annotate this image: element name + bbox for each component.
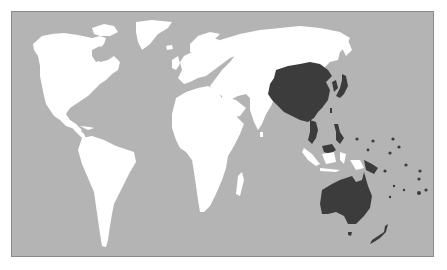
world-map [0, 0, 447, 270]
north-america [33, 33, 120, 132]
central-america [70, 120, 86, 138]
papua-new-guinea-highlight [364, 160, 378, 174]
philippines-highlight [334, 124, 344, 144]
indonesia [302, 148, 320, 166]
south-america [78, 136, 136, 247]
korea-highlight [332, 80, 338, 92]
arctic-islands [92, 24, 118, 36]
australia-highlight [320, 172, 372, 224]
china-highlight [268, 62, 332, 122]
greenland [136, 20, 172, 50]
new-zealand-highlight [370, 224, 388, 244]
southeast-asia-highlight [308, 120, 318, 144]
japan-highlight [336, 74, 348, 98]
india [250, 94, 272, 130]
